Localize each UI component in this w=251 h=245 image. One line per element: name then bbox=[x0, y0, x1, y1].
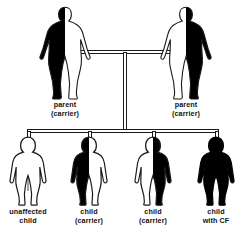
label-child-1: unaffected child bbox=[0, 208, 56, 225]
pedigree-diagram: parent (carrier) parent (carrier) unaffe… bbox=[0, 0, 251, 245]
label-child-2-line2: (carrier) bbox=[61, 217, 117, 226]
descent-line bbox=[123, 52, 127, 131]
label-child-1-line2: child bbox=[0, 217, 56, 226]
label-child-3-line1: child bbox=[144, 207, 161, 216]
label-parent-right-line2: (carrier) bbox=[156, 110, 216, 119]
label-parent-left-line2: (carrier) bbox=[35, 110, 95, 119]
label-parent-left: parent (carrier) bbox=[35, 101, 95, 118]
sibship-line bbox=[27, 129, 219, 133]
label-child-3-line2: (carrier) bbox=[125, 217, 181, 226]
figure-child-3 bbox=[133, 136, 173, 206]
label-child-3: child (carrier) bbox=[125, 208, 181, 225]
figure-parent-right bbox=[158, 6, 214, 100]
figure-child-4 bbox=[196, 136, 236, 206]
label-child-1-line1: unaffected bbox=[9, 207, 46, 216]
label-child-2-line1: child bbox=[80, 207, 97, 216]
label-child-2: child (carrier) bbox=[61, 208, 117, 225]
label-child-4: child with CF bbox=[188, 208, 244, 225]
figure-child-2 bbox=[69, 136, 109, 206]
label-child-4-line1: child bbox=[207, 207, 224, 216]
label-parent-right-line1: parent bbox=[175, 100, 198, 109]
label-parent-left-line1: parent bbox=[54, 100, 77, 109]
label-parent-right: parent (carrier) bbox=[156, 101, 216, 118]
label-child-4-line2: with CF bbox=[188, 217, 244, 226]
figure-child-1 bbox=[8, 136, 48, 206]
figure-parent-left bbox=[37, 6, 93, 100]
